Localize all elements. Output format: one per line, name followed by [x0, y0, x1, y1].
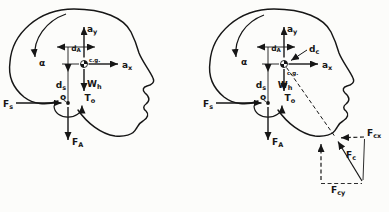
torque-label: To	[285, 93, 296, 105]
ax-label: ax	[322, 60, 333, 72]
right-free-body-diagram: α ay ax c.g. Wh dA ds o Fs To FA dc	[203, 9, 382, 197]
axial-force-label: FA	[72, 137, 83, 149]
dA-label: dA	[71, 44, 81, 54]
alpha-label: α	[241, 57, 247, 67]
axial-force-label: FA	[272, 137, 283, 149]
weight-label: Wh	[278, 80, 293, 92]
chin-force-x-label: Fcx	[367, 128, 382, 140]
ay-label: ay	[87, 24, 98, 36]
shear-force-label: Fs	[203, 99, 213, 111]
cg-symbol	[281, 61, 288, 68]
torque-label: To	[85, 93, 96, 105]
dA-label: dA	[271, 44, 281, 54]
weight-label: Wh	[87, 79, 102, 91]
ds-label: ds	[56, 80, 66, 92]
cg-symbol	[81, 61, 88, 68]
dc-label: dc	[309, 44, 319, 56]
force-parallelogram-right-side	[363, 139, 365, 180]
chin-force-x-arrow	[341, 137, 364, 138]
dc-label-leader-arrow	[291, 50, 307, 61]
head-outline-right	[210, 9, 354, 136]
condyle-label: o	[260, 92, 266, 102]
cg-label: c.g.	[89, 57, 100, 64]
left-free-body-diagram: α ay ax c.g. Wh dA ds o Fs To FA	[3, 9, 154, 149]
shear-force-label: Fs	[3, 99, 13, 111]
ay-label: ay	[287, 24, 298, 36]
alpha-label: α	[39, 58, 45, 68]
chin-force-resultant-label: Fc	[346, 150, 356, 162]
ax-label: ax	[122, 60, 133, 72]
angular-acceleration-arrow	[236, 15, 264, 57]
head-free-body-diagrams: α ay ax c.g. Wh dA ds o Fs To FA	[0, 0, 389, 212]
chin-force-y-label: Fcy	[331, 185, 346, 197]
head-outline-left	[10, 9, 154, 136]
ds-label: ds	[256, 80, 266, 92]
condyle-label: o	[60, 92, 66, 102]
angular-acceleration-arrow	[35, 14, 66, 57]
chin-force-resultant-arrow	[338, 142, 362, 182]
